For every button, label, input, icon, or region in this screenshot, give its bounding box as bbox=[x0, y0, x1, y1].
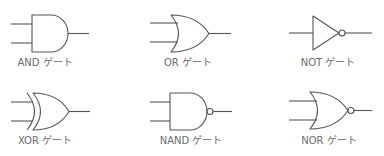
nand-gate-label: NAND ゲート bbox=[160, 135, 223, 146]
or-gate-symbol bbox=[171, 15, 209, 52]
xor-gate-symbol bbox=[33, 93, 69, 130]
and-gate-label: AND ゲート bbox=[17, 57, 72, 68]
not-gate: NOT ゲート bbox=[289, 16, 372, 68]
nor-gate-symbol bbox=[310, 92, 348, 129]
or-gate-label: OR ゲート bbox=[164, 57, 212, 68]
nand-gate-symbol bbox=[170, 93, 207, 130]
and-gate-symbol bbox=[32, 15, 68, 52]
not-inversion-bubble bbox=[339, 30, 345, 36]
nor-gate: NOR ゲート bbox=[289, 92, 372, 146]
xor-gate: XOR ゲート bbox=[11, 93, 90, 146]
or-gate: OR ゲート bbox=[150, 15, 231, 68]
not-gate-label: NOT ゲート bbox=[301, 57, 356, 68]
xor-extra-curve bbox=[27, 93, 35, 130]
nor-gate-label: NOR ゲート bbox=[301, 135, 356, 146]
nand-inversion-bubble bbox=[207, 109, 213, 115]
logic-gates-diagram: AND ゲート OR ゲート NOT ゲート XOR ゲート NAND ゲート bbox=[0, 0, 384, 156]
not-gate-symbol bbox=[313, 16, 339, 50]
nand-gate: NAND ゲート bbox=[150, 93, 232, 146]
xor-gate-label: XOR ゲート bbox=[18, 135, 72, 146]
nor-inversion-bubble bbox=[348, 108, 354, 114]
and-gate: AND ゲート bbox=[11, 15, 89, 68]
